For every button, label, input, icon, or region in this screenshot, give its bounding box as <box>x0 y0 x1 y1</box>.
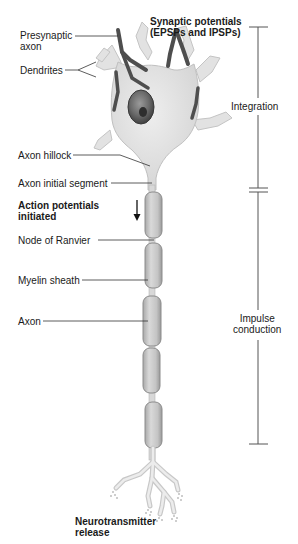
axon-terminals <box>116 448 178 514</box>
cell-body <box>111 62 199 190</box>
label-node-of-ranvier: Node of Ranvier <box>18 235 90 246</box>
label-synaptic-potentials: Synaptic potentials (EPSPs and IPSPs) <box>150 16 242 38</box>
label-myelin-sheath: Myelin sheath <box>18 275 80 286</box>
label-integration: Integration <box>231 101 278 112</box>
label-impulse-conduction: Impulse conduction <box>233 313 281 335</box>
label-presynaptic-axon: Presynaptic axon <box>20 30 72 52</box>
neuron-diagram <box>0 0 298 544</box>
nucleolus <box>139 107 147 117</box>
nucleus <box>128 90 154 124</box>
label-axon: Axon <box>18 316 41 327</box>
arrow-down-icon <box>134 200 141 221</box>
label-action-potentials-initiated: Action potentials initiated <box>18 200 99 222</box>
label-axon-hillock: Axon hillock <box>18 150 71 161</box>
label-dendrites: Dendrites <box>20 65 63 76</box>
label-axon-initial-segment: Axon initial segment <box>18 178 108 189</box>
myelin-segments <box>143 192 162 448</box>
label-neurotransmitter-release: Neurotransmitter release <box>75 516 156 538</box>
region-bracket <box>249 27 268 444</box>
